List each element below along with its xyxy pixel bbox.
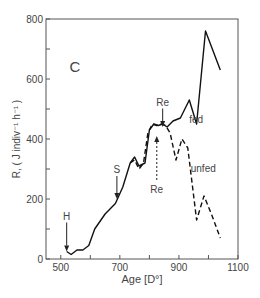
series-label-unfed: unfed xyxy=(191,163,216,174)
x-axis: 5007009001100 xyxy=(52,255,249,273)
chart-svg: 5007009001100 0200400600800 HSReRefedunf… xyxy=(0,0,260,298)
y-axis-label: R, ( J indiv⁻¹ h⁻¹ ) xyxy=(11,100,22,178)
panel-label: C xyxy=(70,58,81,75)
arrow-up-icon xyxy=(154,136,159,142)
annotations: HSReRefedunfed xyxy=(63,97,216,252)
x-tick-label: 900 xyxy=(171,262,188,273)
y-tick-label: 600 xyxy=(26,74,43,85)
annotation-label-S: S xyxy=(114,164,121,175)
series-fed xyxy=(67,31,221,255)
x-tick-label: 700 xyxy=(112,262,129,273)
y-tick-label: 0 xyxy=(37,254,43,265)
respiration-chart: 5007009001100 0200400600800 HSReRefedunf… xyxy=(0,0,260,298)
x-axis-label: Age [D°] xyxy=(121,273,162,285)
y-tick-label: 400 xyxy=(26,134,43,145)
series-unfed xyxy=(130,124,220,238)
arrow-down-icon xyxy=(64,246,69,252)
annotation-label-Re: Re xyxy=(156,97,169,108)
data-lines xyxy=(67,31,221,255)
series-label-fed: fed xyxy=(189,114,203,125)
annotation-label-H: H xyxy=(63,211,70,222)
y-tick-label: 800 xyxy=(26,14,43,25)
annotation-label-Re: Re xyxy=(150,184,163,195)
plot-border xyxy=(46,19,238,259)
x-tick-label: 500 xyxy=(52,262,69,273)
plot-frame xyxy=(46,19,238,259)
x-tick-label: 1100 xyxy=(227,262,249,273)
y-tick-label: 200 xyxy=(26,194,43,205)
